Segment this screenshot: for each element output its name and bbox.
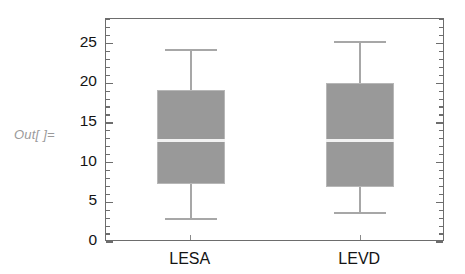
- y-minor-tick: [106, 218, 110, 219]
- y-axis-tick-label: 20: [55, 72, 97, 90]
- y-major-tick: [436, 83, 443, 84]
- y-minor-tick: [106, 59, 110, 60]
- y-minor-tick: [439, 99, 443, 100]
- box-whisker-lower-cap: [334, 212, 386, 214]
- y-minor-tick: [106, 106, 110, 107]
- y-minor-tick: [439, 154, 443, 155]
- y-axis-tick-label: 5: [55, 191, 97, 209]
- y-minor-tick: [106, 91, 110, 92]
- y-minor-tick: [439, 59, 443, 60]
- y-axis-tick-label: 25: [55, 33, 97, 51]
- y-minor-tick: [439, 19, 443, 20]
- y-minor-tick: [439, 218, 443, 219]
- y-minor-tick: [439, 178, 443, 179]
- y-major-tick: [106, 162, 113, 163]
- y-major-tick: [436, 122, 443, 123]
- y-minor-tick: [439, 210, 443, 211]
- y-minor-tick: [439, 106, 443, 107]
- y-minor-tick: [106, 27, 110, 28]
- box-plot-median-line: [157, 139, 225, 142]
- box-whisker-upper-stem: [359, 42, 361, 83]
- x-axis-tick: [190, 235, 191, 240]
- y-minor-tick: [106, 67, 110, 68]
- y-major-tick: [436, 43, 443, 44]
- y-minor-tick: [106, 194, 110, 195]
- y-axis-tick-label: 0: [55, 231, 97, 249]
- y-major-tick: [106, 202, 113, 203]
- y-major-tick: [106, 83, 113, 84]
- y-minor-tick: [106, 226, 110, 227]
- y-minor-tick: [106, 51, 110, 52]
- y-minor-tick: [106, 75, 110, 76]
- y-minor-tick: [439, 75, 443, 76]
- y-minor-tick: [106, 99, 110, 100]
- y-minor-tick: [439, 51, 443, 52]
- y-minor-tick: [106, 210, 110, 211]
- x-axis-category-label: LESA: [130, 250, 250, 268]
- box-plot-median-line: [326, 139, 394, 142]
- y-minor-tick: [106, 186, 110, 187]
- y-minor-tick: [439, 186, 443, 187]
- y-minor-tick: [106, 35, 110, 36]
- y-minor-tick: [439, 114, 443, 115]
- y-minor-tick: [106, 130, 110, 131]
- y-minor-tick: [106, 154, 110, 155]
- y-minor-tick: [439, 146, 443, 147]
- box-whisker-lower-cap: [165, 218, 217, 220]
- y-minor-tick: [439, 67, 443, 68]
- box-plot-box: [326, 83, 394, 187]
- y-minor-tick: [106, 233, 110, 234]
- box-whisker-upper-stem: [190, 50, 192, 90]
- x-axis-tick: [360, 235, 361, 240]
- y-major-tick: [436, 162, 443, 163]
- y-major-tick: [436, 202, 443, 203]
- y-minor-tick: [439, 138, 443, 139]
- y-minor-tick: [106, 19, 110, 20]
- y-minor-tick: [439, 91, 443, 92]
- box-whisker-lower-stem: [359, 187, 361, 212]
- x-axis-category-label: LEVD: [299, 250, 419, 268]
- y-major-tick: [436, 241, 443, 242]
- box-whisker-upper-cap: [165, 49, 217, 51]
- y-minor-tick: [106, 138, 110, 139]
- y-minor-tick: [106, 170, 110, 171]
- y-major-tick: [106, 122, 113, 123]
- y-minor-tick: [439, 130, 443, 131]
- y-minor-tick: [439, 233, 443, 234]
- plot-frame: [105, 18, 444, 241]
- output-prompt-label: Out[ ]=: [14, 127, 55, 142]
- y-minor-tick: [439, 35, 443, 36]
- y-minor-tick: [439, 194, 443, 195]
- y-minor-tick: [106, 146, 110, 147]
- y-major-tick: [106, 241, 113, 242]
- y-minor-tick: [439, 27, 443, 28]
- y-minor-tick: [106, 114, 110, 115]
- notebook-output-cell: Out[ ]= 0510152025 LESALEVD: [0, 0, 465, 274]
- box-whisker-upper-cap: [334, 41, 386, 43]
- box-whisker-lower-stem: [190, 184, 192, 219]
- y-axis-tick-label: 10: [55, 152, 97, 170]
- box-plot-box: [157, 90, 225, 184]
- y-axis-tick-label: 15: [55, 112, 97, 130]
- y-minor-tick: [439, 226, 443, 227]
- y-major-tick: [106, 43, 113, 44]
- y-minor-tick: [106, 178, 110, 179]
- y-minor-tick: [439, 170, 443, 171]
